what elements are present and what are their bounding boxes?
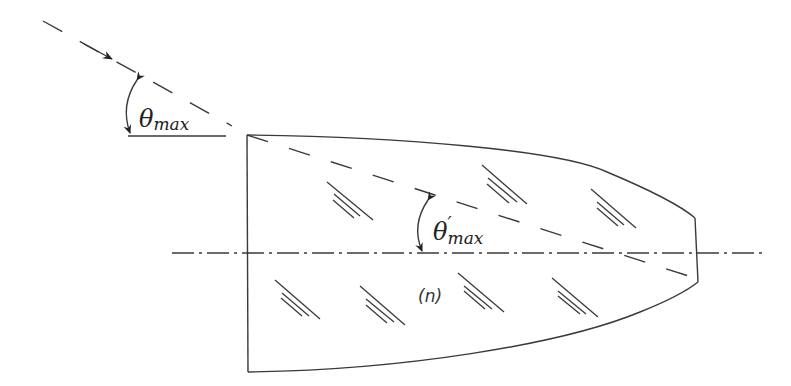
- hatch-mark: [275, 280, 320, 319]
- acceptance-angle-diagram: θmax θ′max: [0, 0, 791, 386]
- hatch-mark: [458, 273, 504, 312]
- refracted-ray: [247, 135, 698, 279]
- theta-prime-max-label: θ′max: [433, 213, 484, 248]
- hatch-mark: [327, 182, 373, 220]
- incident-ray: [43, 21, 232, 126]
- angle-arc-inner: [418, 200, 428, 251]
- hatch-mark: [360, 286, 405, 325]
- hatch-mark: [591, 189, 636, 228]
- theta-max-label: θmax: [139, 105, 190, 134]
- hatch-mark: [552, 278, 598, 317]
- angle-arc-outer: [126, 80, 137, 133]
- ray-arrow-icon: [84, 44, 112, 59]
- hatch-mark: [482, 165, 527, 204]
- refractive-index-label: (n): [418, 286, 442, 306]
